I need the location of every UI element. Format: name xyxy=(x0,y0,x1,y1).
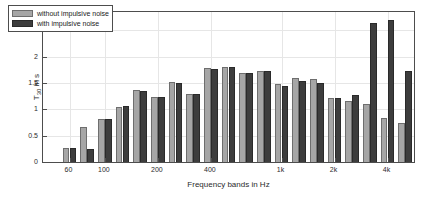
x-tick-mark xyxy=(70,158,71,162)
bar-125-series-0 xyxy=(116,107,123,162)
bar-315-series-0 xyxy=(186,94,193,162)
legend-label-series-1: with impulsive noise xyxy=(37,20,99,27)
x-tick-mark xyxy=(335,158,336,162)
x-tick-mark xyxy=(158,158,159,162)
legend-swatch-series-1 xyxy=(12,20,33,27)
bar-100-series-1 xyxy=(105,119,112,162)
y-tick-label: 0.5 xyxy=(0,131,38,138)
bar-160-series-1 xyxy=(140,91,147,162)
bar-2k-series-1 xyxy=(335,98,342,162)
bar-500-series-0 xyxy=(222,67,229,162)
x-tick-label: 1k xyxy=(277,166,284,173)
bar-250-series-1 xyxy=(176,83,183,162)
bar-2k-series-0 xyxy=(328,98,335,162)
bar-5k-series-1 xyxy=(405,71,412,162)
bar-5k-series-0 xyxy=(398,123,405,162)
bar-200-series-0 xyxy=(151,97,158,162)
y-tick-label: 2 xyxy=(0,52,38,59)
bar-80-series-0 xyxy=(80,127,87,162)
x-tick-mark xyxy=(211,158,212,162)
bar-800-series-0 xyxy=(257,71,264,162)
y-tick-mark xyxy=(43,57,47,58)
bar-500-series-1 xyxy=(229,67,236,162)
y-tick-mark xyxy=(43,136,47,137)
y-tick-label: 1.5 xyxy=(0,79,38,86)
legend-swatch-series-0 xyxy=(12,10,33,17)
x-tick-label: 400 xyxy=(204,166,216,173)
x-tick-mark xyxy=(388,158,389,162)
y-tick-mark xyxy=(43,83,47,84)
bar-63-series-0 xyxy=(63,148,70,162)
legend-item-without-impulsive-noise: without impulsive noise xyxy=(12,9,109,18)
bar-160-series-0 xyxy=(133,90,140,162)
y-tick-label: 1 xyxy=(0,105,38,112)
y-tick-mark xyxy=(43,109,47,110)
legend: without impulsive noise with impulsive n… xyxy=(8,5,113,32)
bar-400-series-1 xyxy=(211,69,218,162)
bar-125-series-1 xyxy=(123,106,130,162)
y-tick-mark xyxy=(43,162,47,163)
bar-4k-series-1 xyxy=(388,20,395,162)
bar-630-series-0 xyxy=(239,73,246,162)
bar-200-series-1 xyxy=(158,97,165,162)
x-tick-label: 100 xyxy=(98,166,110,173)
x-tick-label: 4k xyxy=(383,166,390,173)
bar-1k-series-0 xyxy=(275,84,282,162)
bar-630-series-1 xyxy=(246,73,253,162)
bar-63-series-1 xyxy=(70,148,77,162)
bar-1.6k-series-1 xyxy=(317,83,324,162)
bar-1.25k-series-1 xyxy=(299,81,306,162)
x-tick-label: 60 xyxy=(65,166,73,173)
legend-label-series-0: without impulsive noise xyxy=(37,10,109,17)
bar-100-series-0 xyxy=(98,119,105,162)
bars-layer xyxy=(43,12,414,162)
bar-315-series-1 xyxy=(193,94,200,162)
x-axis-label: Frequency bands in Hz xyxy=(42,180,415,189)
bar-80-series-1 xyxy=(87,149,94,162)
bar-1.25k-series-0 xyxy=(292,78,299,162)
bar-250-series-0 xyxy=(169,82,176,162)
y-tick-label: 0 xyxy=(0,158,38,165)
legend-item-with-impulsive-noise: with impulsive noise xyxy=(12,19,109,28)
bar-3.15k-series-0 xyxy=(363,104,370,162)
x-tick-label: 200 xyxy=(151,166,163,173)
bar-1.6k-series-0 xyxy=(310,79,317,162)
bar-2.5k-series-1 xyxy=(352,95,359,162)
bar-4k-series-0 xyxy=(381,118,388,162)
bar-800-series-1 xyxy=(264,71,271,162)
bar-chart-figure: T30 in s 00.511.522.5 601002004001k2k4k … xyxy=(0,0,423,213)
x-tick-mark xyxy=(105,158,106,162)
bar-2.5k-series-0 xyxy=(345,101,352,162)
plot-area: T30 in s xyxy=(42,11,415,163)
x-tick-mark xyxy=(282,158,283,162)
bar-3.15k-series-1 xyxy=(370,23,377,162)
bar-1k-series-1 xyxy=(282,86,289,162)
bar-400-series-0 xyxy=(204,68,211,162)
x-tick-label: 2k xyxy=(330,166,337,173)
